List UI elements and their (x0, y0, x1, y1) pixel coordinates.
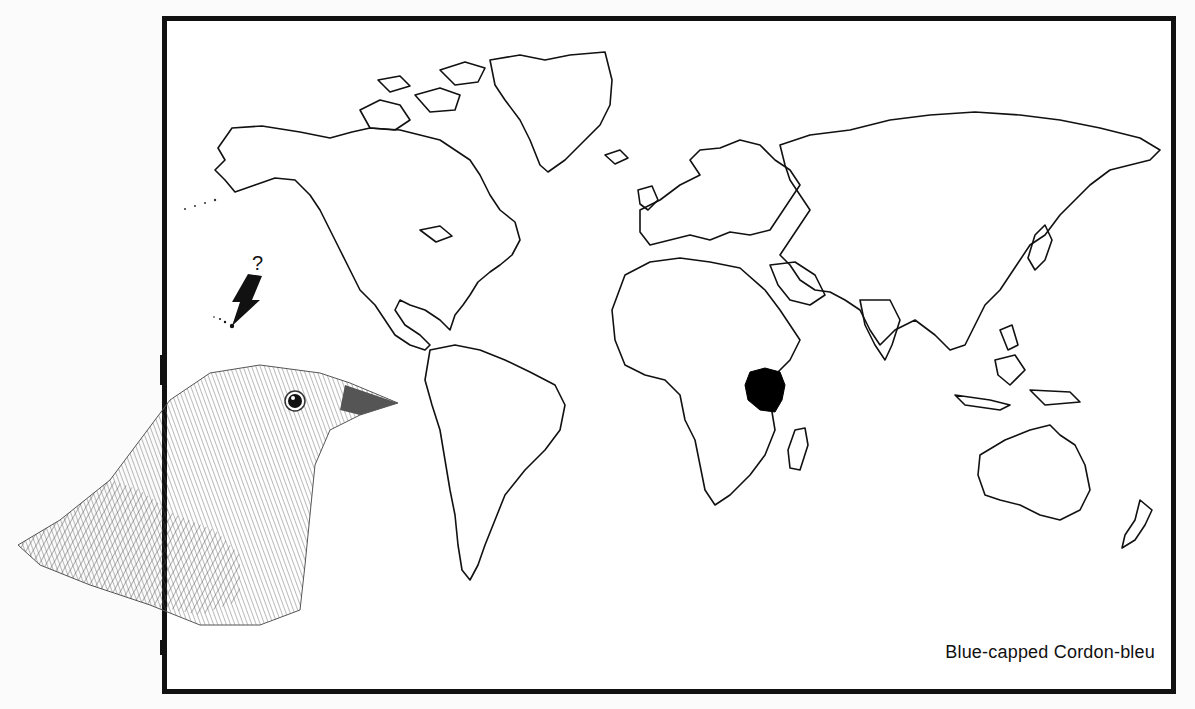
japan-outline (1028, 225, 1052, 270)
arabia-outline (770, 262, 825, 305)
native-range-fill (745, 368, 785, 412)
australia-outline (978, 425, 1090, 520)
hawaii-islands (213, 316, 234, 328)
madagascar-outline (788, 428, 808, 470)
question-mark: ? (252, 252, 263, 274)
new-zealand-outline (1122, 500, 1152, 548)
south-america-outline (425, 345, 565, 580)
bird-head-illustration (0, 355, 420, 655)
greenland-outline (490, 52, 612, 172)
arrow-icon (232, 274, 262, 326)
asia-outline (780, 112, 1160, 350)
north-america-outline (215, 126, 520, 350)
species-caption: Blue-capped Cordon-bleu (945, 642, 1155, 663)
europe-outline (640, 140, 800, 245)
